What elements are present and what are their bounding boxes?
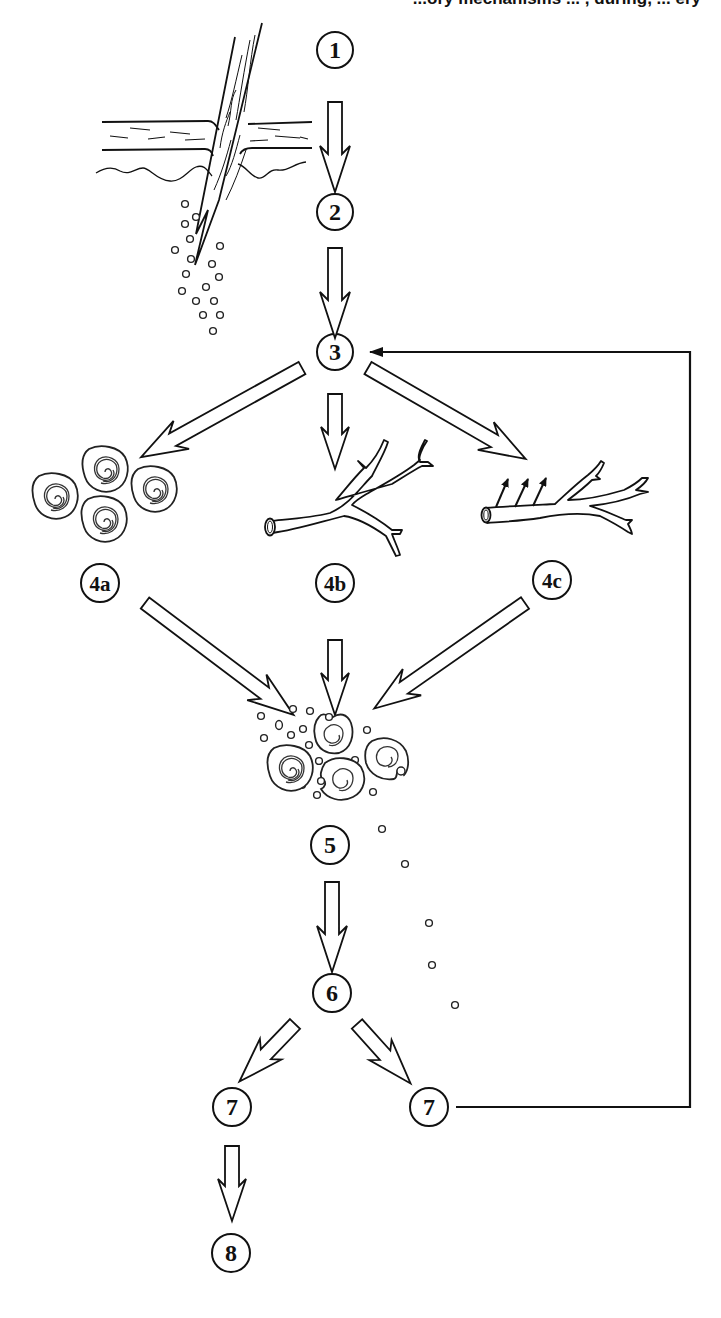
step-3-label: 3 <box>329 339 341 365</box>
splinter-penetrating-skin-icon <box>96 23 312 265</box>
arrow-4b-to-5 <box>321 640 349 715</box>
permeable-blood-vessel-icon <box>482 461 649 534</box>
arrow-7-to-8 <box>218 1146 246 1221</box>
arrow-2-to-3 <box>320 248 350 338</box>
bacteria-dots-icon <box>172 201 224 335</box>
step-4a: 4a <box>81 564 119 602</box>
leukocytes-cluster-icon <box>32 446 176 542</box>
arrow-3-to-4a <box>133 354 309 471</box>
step-4c-label: 4c <box>542 569 562 593</box>
step-7-right-label: 7 <box>423 1094 435 1120</box>
trailing-dots-icon <box>379 826 459 1009</box>
step-4a-label: 4a <box>90 572 112 596</box>
step-6: 6 <box>313 974 351 1012</box>
arrow-4c-to-5 <box>365 590 534 722</box>
dilated-blood-vessel-icon <box>265 440 433 556</box>
step-7-left: 7 <box>213 1088 251 1126</box>
step-8: 8 <box>212 1234 250 1272</box>
arrow-6-to-7-left <box>229 1014 306 1092</box>
inflammation-flow-diagram: 1 2 3 4a 4b 4c 5 6 7 7 8 <box>0 0 721 1318</box>
step-4b-label: 4b <box>324 572 346 596</box>
step-7-left-label: 7 <box>226 1094 238 1120</box>
step-8-label: 8 <box>225 1240 237 1266</box>
arrow-4a-to-5 <box>135 590 303 727</box>
step-5-label: 5 <box>324 832 336 858</box>
step-6-label: 6 <box>326 980 338 1006</box>
arrow-5-to-6 <box>317 882 347 972</box>
arrow-6-to-7-right <box>346 1014 422 1094</box>
arrow-3-to-4c <box>360 354 534 473</box>
arrow-3-to-4b <box>321 394 349 469</box>
step-1: 1 <box>317 32 353 68</box>
step-2-label: 2 <box>329 199 341 225</box>
phagocytosis-cluster-icon <box>258 706 409 800</box>
step-1-label: 1 <box>329 37 341 63</box>
step-2: 2 <box>317 194 353 230</box>
step-4c: 4c <box>533 561 571 599</box>
arrow-1-to-2 <box>320 102 350 192</box>
step-4b: 4b <box>316 564 354 602</box>
step-5: 5 <box>311 826 349 864</box>
step-7-right: 7 <box>410 1088 448 1126</box>
